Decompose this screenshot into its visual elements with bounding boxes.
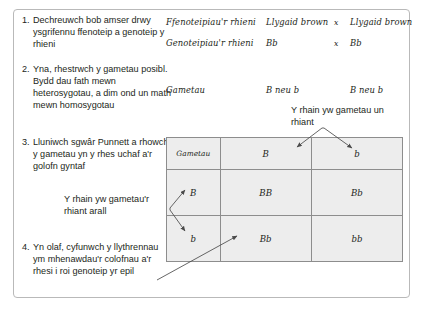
- parent2-phenotype-value: Llygaid brown: [350, 17, 412, 27]
- punnett-corner-label: Gametau: [167, 138, 221, 170]
- punnett-row: B BB Bb: [167, 170, 403, 216]
- punnett-row-header-2: b: [167, 216, 221, 262]
- punnett-cell-1-1: BB: [220, 170, 311, 216]
- parent1-gametes-value: B neu b: [266, 85, 299, 95]
- step-number: 4.: [22, 241, 30, 253]
- punnett-row-header-1: B: [167, 170, 221, 216]
- annotation-left: Y rhain yw gametau'r rhiant arall: [64, 193, 168, 217]
- punnett-row: b Bb bb: [167, 216, 403, 262]
- step-text: Yn olaf, cyfunwch y llythrennau ym mhena…: [33, 241, 172, 277]
- step-text: Lluniwch sgwâr Punnett a rhowch y gameta…: [33, 136, 172, 172]
- punnett-cell-1-2: Bb: [311, 170, 402, 216]
- step-text: Dechreuwch bob amser drwy ysgrifennu ffe…: [33, 14, 170, 50]
- instruction-step-4: 4. Yn olaf, cyfunwch y llythrennau ym mh…: [22, 241, 172, 277]
- parent2-genotype-value: Bb: [350, 38, 362, 48]
- punnett-cell-2-2: bb: [311, 216, 402, 262]
- instruction-step-1: 1. Dechreuwch bob amser drwy ysgrifennu …: [22, 14, 170, 50]
- step-number: 2.: [22, 63, 30, 75]
- step-number: 3.: [22, 136, 30, 148]
- step-text: Yna, rhestrwch y gametau posibl. Bydd da…: [33, 63, 174, 111]
- parent2-gametes-value: B neu b: [350, 85, 383, 95]
- parent-genotype-label: Genoteipiau'r rhieni: [166, 38, 254, 48]
- phenotype-cross-symbol: x: [334, 18, 338, 27]
- step-number: 1.: [22, 14, 30, 26]
- parent-phenotype-label: Ffenoteipiau'r rhieni: [166, 17, 256, 27]
- punnett-cell-2-1: Bb: [220, 216, 311, 262]
- punnett-header-row: Gametau B b: [167, 138, 403, 170]
- punnett-square: Gametau B b B BB Bb b Bb bb: [166, 137, 403, 262]
- instruction-step-2: 2. Yna, rhestrwch y gametau posibl. Bydd…: [22, 63, 174, 111]
- annotation-top: Y rhain yw gametau un rhiant: [291, 104, 401, 128]
- parent1-genotype-value: Bb: [266, 38, 278, 48]
- instruction-step-3: 3. Lluniwch sgwâr Punnett a rhowch y gam…: [22, 136, 172, 172]
- gametes-label: Gametau: [166, 85, 205, 95]
- parent1-phenotype-value: Llygaid brown: [266, 17, 328, 27]
- punnett-column-header-2: b: [311, 138, 402, 170]
- genotype-cross-symbol: x: [334, 39, 338, 48]
- punnett-column-header-1: B: [220, 138, 311, 170]
